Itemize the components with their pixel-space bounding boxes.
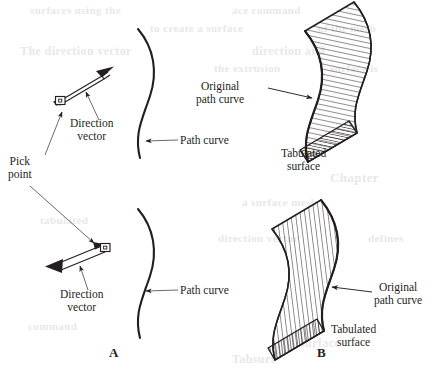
label-tabulated-surface-top: Tabulated surface [281,147,326,172]
path-curve-bottom [138,209,154,338]
panel-letter-a: A [109,345,118,361]
direction-vector-leader-top [86,92,99,120]
panel-b-top-group [268,2,371,162]
pick-point-marker-bottom [101,244,111,252]
path-curve-leader-top [146,140,178,141]
label-original-path-curve-top: Original path curve [196,80,244,105]
label-line: vector [67,301,96,313]
label-line: path curve [196,93,244,105]
pick-point-leader-bottom [30,186,94,243]
label-line: surface [287,160,320,172]
label-direction-vector-top: Direction vector [70,117,113,142]
label-pick-point-top: Pick point [8,155,32,180]
label-line: Original [201,80,239,92]
label-line: surface [337,336,370,348]
label-line: Original [379,281,417,293]
original-path-curve-leader-bottom [332,287,372,292]
label-line: Tabulated [331,323,376,335]
panel-letter-b: B [317,345,326,361]
path-curve-leader-bottom [146,290,178,291]
path-curve-top [138,29,154,158]
label-tabulated-surface-bottom: Tabulated surface [331,323,376,348]
label-line: Direction [70,117,113,129]
pick-point-marker-top [56,97,66,105]
original-path-curve-leader-top [268,88,312,98]
label-line: Tabulated [281,147,326,159]
label-line: point [8,168,32,180]
panel-a-bottom-group [30,186,178,338]
pick-point-leader-top [45,112,62,155]
direction-vector-leader-bottom [80,266,88,290]
label-path-curve-top: Path curve [180,134,229,147]
label-line: vector [77,130,106,142]
label-direction-vector-bottom: Direction vector [60,288,103,313]
label-original-path-curve-bottom: Original path curve [374,281,422,306]
direction-vector-bottom [45,242,106,273]
label-line: Direction [60,288,103,300]
label-line: Pick [10,155,30,167]
label-path-curve-bottom: Path curve [180,284,229,297]
label-line: path curve [374,294,422,306]
